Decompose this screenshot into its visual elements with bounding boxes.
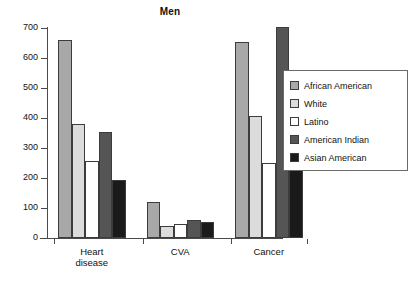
x-axis-tick bbox=[307, 239, 308, 244]
y-axis-tick-label-text: 700 bbox=[12, 23, 38, 32]
x-axis-group-label-line: Cancer bbox=[215, 246, 323, 257]
bar bbox=[235, 42, 249, 239]
bar bbox=[72, 124, 86, 238]
legend-item-label: Asian American bbox=[304, 153, 367, 163]
x-axis-line bbox=[40, 238, 283, 239]
x-axis-group-label: Cancer bbox=[215, 246, 323, 257]
bar bbox=[112, 180, 126, 239]
bar bbox=[187, 220, 201, 238]
legend-item: White bbox=[290, 95, 327, 112]
y-axis-tick-label: 100 bbox=[8, 203, 38, 212]
legend-swatch-icon bbox=[290, 81, 299, 90]
x-axis-tick bbox=[231, 239, 232, 244]
x-axis-group-label-line: disease bbox=[38, 257, 146, 268]
y-axis-tick bbox=[41, 118, 47, 119]
legend-item-label: African American bbox=[304, 81, 372, 91]
bar bbox=[289, 164, 303, 238]
y-axis-tick-label: 600 bbox=[8, 53, 38, 62]
bar bbox=[99, 132, 113, 238]
y-axis-tick-label-text: 600 bbox=[12, 53, 38, 62]
bar-chart: Men 0100200300400500600700 HeartdiseaseC… bbox=[0, 0, 418, 285]
bar bbox=[201, 222, 215, 238]
y-axis-tick bbox=[41, 208, 47, 209]
bar bbox=[147, 202, 161, 238]
y-axis-tick-label: 300 bbox=[8, 143, 38, 152]
y-axis-tick bbox=[41, 58, 47, 59]
bar bbox=[160, 226, 174, 238]
y-axis-tick-label: 700 bbox=[8, 23, 38, 32]
chart-title: Men bbox=[60, 6, 280, 17]
y-axis-tick-label-text: 500 bbox=[12, 83, 38, 92]
y-axis-tick-label-text: 0 bbox=[12, 233, 38, 242]
legend-item: American Indian bbox=[290, 131, 369, 148]
y-axis-tick bbox=[41, 148, 47, 149]
bar bbox=[249, 116, 263, 238]
legend-swatch-icon bbox=[290, 153, 299, 162]
y-axis-tick-label-text: 300 bbox=[12, 143, 38, 152]
legend-item: Asian American bbox=[290, 149, 367, 166]
y-axis-tick bbox=[41, 238, 47, 239]
legend-item-label: American Indian bbox=[304, 135, 369, 145]
legend-item: Latino bbox=[290, 113, 329, 130]
y-axis-tick bbox=[41, 178, 47, 179]
legend-swatch-icon bbox=[290, 117, 299, 126]
y-axis-tick bbox=[41, 88, 47, 89]
y-axis-tick bbox=[41, 28, 47, 29]
legend-item: African American bbox=[290, 77, 372, 94]
x-axis-tick bbox=[54, 239, 55, 244]
y-axis-tick-label-text: 400 bbox=[12, 113, 38, 122]
bar bbox=[262, 163, 276, 238]
plot-area bbox=[48, 28, 282, 238]
y-axis-tick-label: 0 bbox=[8, 233, 38, 242]
legend-item-label: White bbox=[304, 99, 327, 109]
legend-item-label: Latino bbox=[304, 117, 329, 127]
legend-swatch-icon bbox=[290, 99, 299, 108]
bar bbox=[174, 224, 188, 238]
legend-swatch-icon bbox=[290, 135, 299, 144]
y-axis-tick-label-text: 200 bbox=[12, 173, 38, 182]
y-axis-tick-label: 200 bbox=[8, 173, 38, 182]
y-axis-tick-label: 500 bbox=[8, 83, 38, 92]
legend: African AmericanWhiteLatinoAmerican Indi… bbox=[283, 70, 408, 171]
y-axis-tick-label-text: 100 bbox=[12, 203, 38, 212]
x-axis-tick bbox=[143, 239, 144, 244]
y-axis-tick-label: 400 bbox=[8, 113, 38, 122]
bar bbox=[85, 161, 99, 238]
bar bbox=[58, 40, 72, 238]
